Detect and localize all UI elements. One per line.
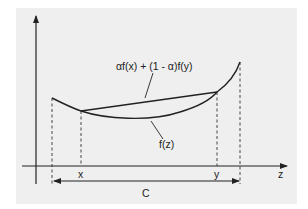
chord-leader-line bbox=[145, 73, 153, 98]
z-axis-label: z bbox=[278, 168, 283, 180]
curve-leader-line bbox=[151, 121, 163, 139]
point-x-label: x bbox=[78, 168, 84, 180]
set-c-label: C bbox=[142, 187, 150, 199]
convexity-diagram: αf(x) + (1 - α)f(y) f(z) x y z C bbox=[0, 0, 308, 209]
chord-label: αf(x) + (1 - α)f(y) bbox=[116, 60, 193, 72]
point-y-label: y bbox=[214, 168, 220, 180]
curve-label: f(z) bbox=[159, 138, 174, 150]
chord-line bbox=[81, 92, 217, 111]
